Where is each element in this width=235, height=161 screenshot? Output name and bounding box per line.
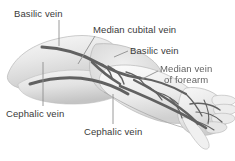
hand-illustration (178, 87, 235, 149)
label-median-vein-of-forearm-line1: Median vein (160, 63, 212, 74)
label-cephalic-vein-lower: Cephalic vein (84, 126, 142, 137)
label-basilic-vein-upper: Basilic vein (14, 8, 63, 19)
label-basilic-vein-lower: Basilic vein (130, 45, 179, 56)
label-cephalic-vein-upper: Cephalic vein (6, 108, 64, 119)
label-median-cubital-vein: Median cubital vein (93, 24, 176, 35)
label-median-vein-of-forearm: Median vein of forearm (160, 63, 212, 85)
label-median-vein-of-forearm-line2: of forearm (160, 74, 212, 85)
vein-anatomy-figure: Basilic vein Median cubital vein Basilic… (0, 0, 235, 161)
